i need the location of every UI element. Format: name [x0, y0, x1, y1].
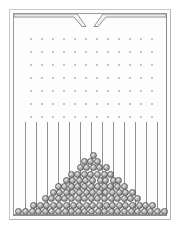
- ball: [94, 171, 101, 178]
- pin: [96, 116, 98, 118]
- ball: [81, 183, 88, 190]
- pin: [107, 51, 109, 53]
- pin: [96, 90, 98, 92]
- bin-divider: [25, 122, 26, 214]
- bin-floor: [14, 214, 166, 215]
- pin: [74, 38, 76, 40]
- pin: [129, 64, 131, 66]
- pin: [96, 77, 98, 79]
- pin: [107, 116, 109, 118]
- pin: [74, 103, 76, 105]
- pin: [85, 38, 87, 40]
- pin: [52, 116, 54, 118]
- pin: [140, 77, 142, 79]
- pin: [74, 51, 76, 53]
- galton-board-figure: [0, 0, 181, 230]
- bin-divider: [36, 122, 37, 214]
- pin: [85, 51, 87, 53]
- pin: [129, 51, 131, 53]
- pin: [52, 103, 54, 105]
- pin: [96, 64, 98, 66]
- ball: [107, 171, 114, 178]
- ball: [89, 202, 96, 209]
- pin: [30, 51, 32, 53]
- pin: [52, 51, 54, 53]
- pin: [107, 38, 109, 40]
- pin: [118, 103, 120, 105]
- pin: [41, 64, 43, 66]
- pin: [52, 38, 54, 40]
- ball: [87, 171, 94, 178]
- pin: [74, 90, 76, 92]
- pin: [118, 77, 120, 79]
- pin: [129, 38, 131, 40]
- pin: [63, 90, 65, 92]
- bin-divider: [157, 122, 158, 214]
- pin: [63, 116, 65, 118]
- pin: [107, 64, 109, 66]
- pin: [118, 116, 120, 118]
- pin: [41, 51, 43, 53]
- pin: [151, 51, 153, 53]
- pin: [41, 103, 43, 105]
- pin: [30, 64, 32, 66]
- pin: [151, 116, 153, 118]
- pin: [41, 38, 43, 40]
- pin: [140, 116, 142, 118]
- pin: [41, 116, 43, 118]
- pin: [63, 51, 65, 53]
- pin: [74, 64, 76, 66]
- pin: [151, 103, 153, 105]
- pin: [129, 90, 131, 92]
- pin: [30, 90, 32, 92]
- pin: [96, 103, 98, 105]
- pin: [107, 103, 109, 105]
- pin: [30, 77, 32, 79]
- pin: [151, 90, 153, 92]
- pin: [63, 64, 65, 66]
- ball: [56, 202, 63, 209]
- ball: [114, 183, 121, 190]
- pin: [52, 77, 54, 79]
- pin: [129, 103, 131, 105]
- pin: [118, 51, 120, 53]
- pin: [151, 77, 153, 79]
- pin: [107, 90, 109, 92]
- pin: [151, 38, 153, 40]
- bin-divider: [146, 122, 147, 214]
- pin: [151, 64, 153, 66]
- pin: [30, 103, 32, 105]
- pin: [140, 103, 142, 105]
- pin: [52, 64, 54, 66]
- pin: [118, 90, 120, 92]
- pin: [140, 64, 142, 66]
- ball: [74, 183, 81, 190]
- pin: [52, 90, 54, 92]
- pin: [41, 90, 43, 92]
- pin: [85, 103, 87, 105]
- ball: [94, 183, 101, 190]
- pin: [85, 64, 87, 66]
- pin: [74, 116, 76, 118]
- ball: [61, 183, 68, 190]
- pin: [129, 77, 131, 79]
- pin: [96, 51, 98, 53]
- pin: [63, 77, 65, 79]
- pin: [140, 51, 142, 53]
- pin: [85, 116, 87, 118]
- pin: [140, 38, 142, 40]
- ball: [74, 171, 81, 178]
- pin: [74, 77, 76, 79]
- pin: [63, 103, 65, 105]
- pin: [85, 90, 87, 92]
- pin: [85, 77, 87, 79]
- pin: [118, 64, 120, 66]
- pin: [41, 77, 43, 79]
- pin: [30, 38, 32, 40]
- pin: [107, 77, 109, 79]
- pin: [118, 38, 120, 40]
- pin: [129, 116, 131, 118]
- pin: [140, 90, 142, 92]
- ball: [107, 183, 114, 190]
- pin: [96, 38, 98, 40]
